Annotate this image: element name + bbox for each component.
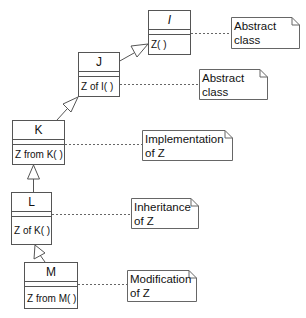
class-operation-k: Z from K( ) [13, 145, 64, 160]
class-name-i: I [149, 11, 190, 30]
generalization-j-to-i [118, 53, 134, 62]
note-k: Implementation of Z [143, 131, 227, 161]
class-box-k: K Z from K( ) [12, 120, 65, 165]
note-j: Abstract class [200, 70, 260, 100]
note-k-line1: Implementation [145, 132, 227, 146]
class-box-l: L Z of K( ) [11, 192, 52, 245]
note-l-line1: Inheritance [134, 200, 194, 214]
class-operation-m: Z from M( ) [25, 287, 77, 304]
generalization-m-to-l [40, 255, 45, 262]
note-k-line2: of Z [145, 146, 227, 160]
note-j-line2: class [202, 85, 260, 99]
note-i-line2: class [234, 33, 292, 47]
class-name-k: K [13, 121, 64, 140]
class-name-j: J [79, 53, 119, 72]
class-operation-i: Z( ) [149, 35, 190, 50]
note-i-line1: Abstract [234, 19, 292, 33]
note-j-line1: Abstract [202, 71, 260, 85]
note-m-line1: Modification [130, 272, 192, 286]
class-box-i: I Z( ) [148, 10, 191, 55]
note-m-line2: of Z [130, 286, 192, 300]
note-l: Inheritance of Z [132, 199, 194, 229]
note-l-line2: of Z [134, 214, 194, 228]
note-m: Modification of Z [128, 271, 192, 301]
class-operation-l: Z of K( ) [12, 217, 51, 236]
class-box-m: M Z from M( ) [24, 262, 78, 309]
class-name-m: M [25, 263, 77, 282]
note-i: Abstract class [232, 18, 292, 48]
class-operation-j: Z of I( ) [79, 77, 119, 92]
class-box-j: J Z of I( ) [78, 52, 120, 97]
generalization-k-to-j [57, 109, 67, 120]
class-name-l: L [12, 193, 51, 212]
